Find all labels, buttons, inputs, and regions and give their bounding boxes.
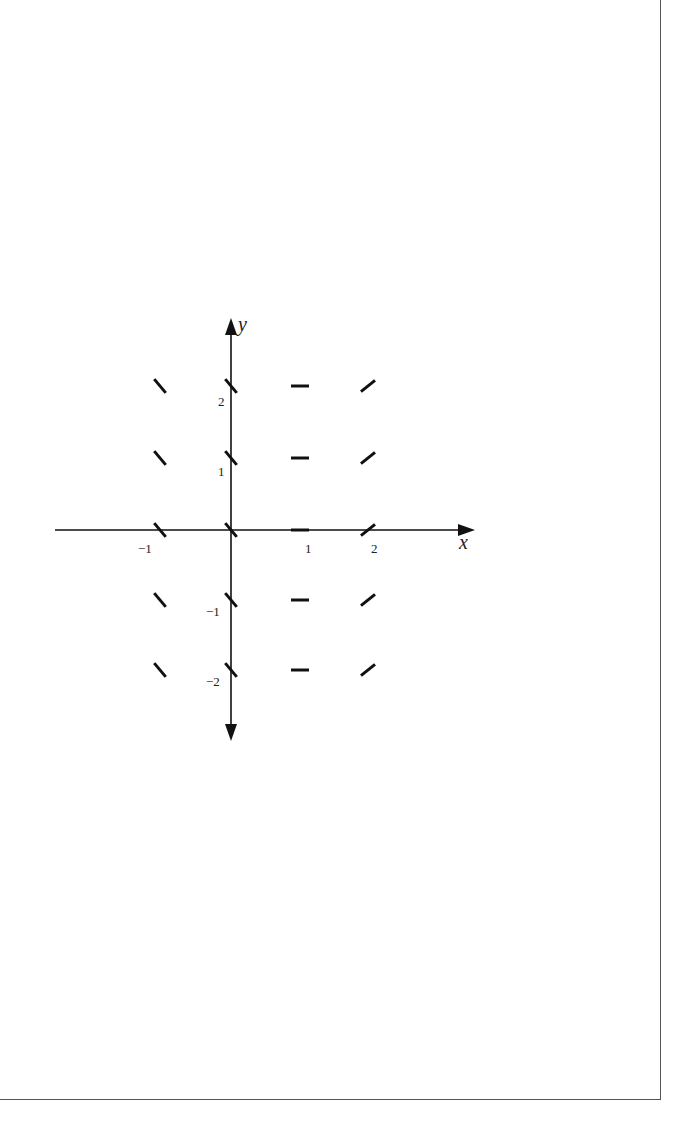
- slope-segment: [154, 593, 166, 607]
- x-axis-label: x: [458, 531, 468, 553]
- x-tick-label-1: 1: [305, 541, 312, 556]
- slope-segment: [361, 380, 375, 391]
- slope-segment: [154, 663, 166, 677]
- y-tick-label-neg1: −1: [206, 604, 220, 619]
- slope-segment: [361, 594, 375, 605]
- y-tick-label-2: 2: [218, 394, 225, 409]
- slope-field-plot: x y −1 1 2 2 1 −1 −2: [0, 0, 688, 1138]
- slope-segment: [154, 379, 166, 393]
- y-axis-arrowhead-up-icon: [225, 318, 237, 335]
- y-axis-label: y: [236, 313, 247, 336]
- y-tick-label-1: 1: [218, 464, 225, 479]
- y-axis-arrowhead-down-icon: [225, 724, 237, 741]
- slope-segment: [154, 451, 166, 465]
- slope-segments: [154, 379, 375, 677]
- x-tick-label-2: 2: [371, 541, 378, 556]
- y-tick-label-neg2: −2: [206, 674, 220, 689]
- slope-segment: [361, 452, 375, 463]
- x-tick-label-neg1: −1: [138, 541, 152, 556]
- slope-segment: [361, 664, 375, 675]
